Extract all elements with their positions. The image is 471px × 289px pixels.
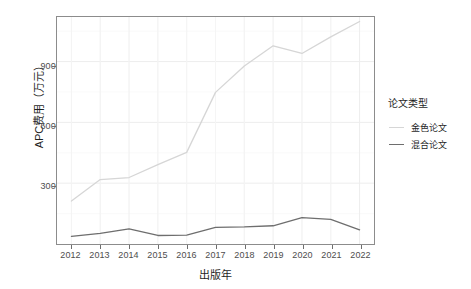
x-tick-mark	[158, 245, 159, 249]
legend-key-line-icon	[388, 122, 405, 133]
x-tick-mark	[71, 245, 72, 249]
y-axis-title: APC费用（万元）	[30, 34, 46, 174]
legend-title: 论文类型	[388, 95, 471, 110]
x-tick-mark	[274, 245, 275, 249]
x-tick-mark	[361, 245, 362, 249]
y-tick-label-600: 600	[22, 121, 56, 131]
legend-item-label: 金色论文	[411, 121, 447, 134]
x-tick-label: 2022	[344, 250, 378, 260]
y-tick-label-300: 300	[22, 181, 56, 191]
y-axis: APC费用（万元） 900 600 300	[14, 0, 56, 289]
x-tick-mark	[332, 245, 333, 249]
x-tick-mark	[187, 245, 188, 249]
legend-item-gold[interactable]: 金色论文	[388, 119, 471, 136]
y-tick-label-900: 900	[22, 61, 56, 71]
legend-key-line-icon	[388, 139, 405, 150]
plot-svg	[57, 17, 374, 244]
plot-panel	[56, 16, 375, 245]
chart-container: APC费用（万元） 900 600 300 201220132014201520…	[0, 0, 471, 289]
x-axis: 2012201320142015201620172018201920202021…	[56, 245, 375, 289]
x-tick-mark	[129, 245, 130, 249]
x-tick-mark	[303, 245, 304, 249]
x-tick-mark	[100, 245, 101, 249]
legend: 论文类型 金色论文 混合论文	[388, 95, 471, 153]
gridlines-vertical-major	[71, 17, 359, 244]
x-axis-title: 出版年	[56, 266, 375, 282]
legend-item-hybrid[interactable]: 混合论文	[388, 136, 471, 153]
legend-item-label: 混合论文	[411, 138, 447, 151]
x-tick-mark	[216, 245, 217, 249]
x-tick-mark	[245, 245, 246, 249]
